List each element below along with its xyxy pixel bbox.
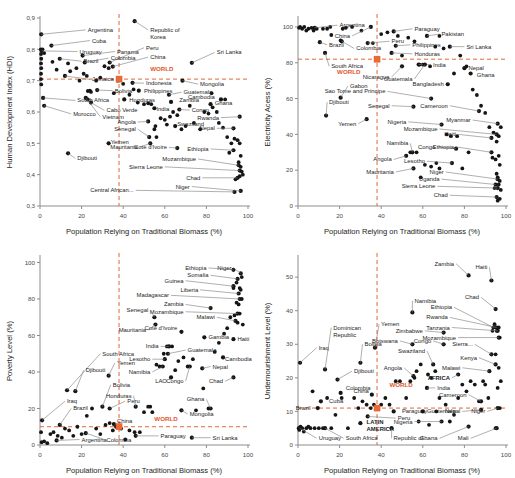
- data-point: [365, 403, 369, 407]
- point-label: Yemen: [381, 321, 399, 327]
- data-point: [55, 68, 59, 72]
- point-label: Sierra Leone: [129, 164, 163, 170]
- data-point: [237, 303, 241, 307]
- data-point: [122, 97, 126, 101]
- x-tick-label: 80: [203, 212, 210, 219]
- point-label: Nigeria: [394, 419, 413, 425]
- leader-line: [186, 281, 234, 286]
- data-point: [311, 389, 315, 393]
- y-tick-label: 20: [28, 405, 35, 412]
- point-label: Ghana: [420, 435, 438, 441]
- x-tick-label: 80: [461, 212, 468, 219]
- data-point: [217, 121, 221, 125]
- data-point: [392, 409, 396, 413]
- data-point: [460, 167, 464, 171]
- y-tick-label: 0: [290, 441, 294, 448]
- leader-line: [68, 153, 75, 158]
- data-point: [90, 407, 94, 411]
- leader-line: [136, 190, 235, 192]
- point-label: Cambodia: [225, 356, 253, 362]
- leader-line: [221, 117, 240, 118]
- leader-line: [186, 304, 211, 308]
- data-point: [358, 421, 362, 425]
- y-tick-label: 100: [283, 23, 294, 30]
- x-tick-label: 0: [296, 451, 300, 458]
- data-point: [111, 428, 115, 432]
- leader-line: [473, 120, 498, 124]
- point-label: Sri Lanka: [466, 44, 492, 50]
- data-point: [39, 77, 43, 81]
- point-label: Rwanda: [197, 115, 219, 121]
- point-label: Cabo Verde: [106, 107, 138, 113]
- data-point: [241, 173, 245, 177]
- data-point: [200, 366, 204, 370]
- leader-line: [135, 21, 149, 30]
- data-point: [334, 413, 338, 417]
- leader-line: [75, 370, 83, 391]
- point-label: Chad: [465, 294, 479, 300]
- world-marker: [374, 405, 380, 411]
- x-axis-label: Population Relying on Traditional Biomas…: [324, 227, 481, 236]
- data-point: [442, 47, 446, 51]
- point-label: Peru: [392, 38, 404, 44]
- data-point: [221, 126, 225, 130]
- point-label: India: [433, 62, 446, 68]
- y-axis-label: Human Development Index (HDI): [5, 55, 14, 168]
- data-point: [444, 403, 448, 407]
- leader-line: [360, 344, 362, 362]
- point-label: Rwanda: [426, 314, 448, 320]
- leader-line: [168, 350, 186, 354]
- point-label: Republic ofKorea: [150, 27, 180, 40]
- leader-line: [171, 295, 240, 299]
- leader-line: [469, 395, 481, 402]
- data-point: [169, 100, 173, 104]
- point-label: Namibia: [414, 298, 436, 304]
- data-point: [80, 432, 84, 436]
- data-point: [171, 110, 175, 114]
- data-point: [462, 66, 466, 70]
- y-tick-label: 30: [286, 340, 293, 347]
- point-label: Namibia: [129, 369, 151, 375]
- data-point: [150, 410, 154, 414]
- point-label: Djibouti: [77, 155, 97, 161]
- world-marker: [116, 424, 122, 430]
- data-point: [431, 362, 435, 366]
- point-label: Cuba: [329, 398, 344, 404]
- point-label: Haiti: [238, 336, 250, 342]
- point-label: Colombia: [356, 45, 382, 51]
- data-point: [176, 359, 180, 363]
- point-label: Chad: [209, 378, 223, 384]
- point-label: Honduras: [106, 393, 132, 399]
- data-point: [76, 425, 80, 429]
- data-point: [71, 434, 75, 438]
- data-point: [466, 424, 470, 428]
- axes: [40, 255, 250, 445]
- data-point: [329, 33, 333, 37]
- leader-line: [338, 371, 353, 379]
- data-point: [162, 352, 166, 356]
- point-label: DominicanRepublic: [333, 325, 361, 338]
- y-tick-label: 0,6: [26, 108, 35, 115]
- leader-line: [396, 45, 411, 46]
- data-point: [448, 420, 452, 424]
- data-point: [229, 141, 233, 145]
- x-tick-label: 60: [419, 451, 426, 458]
- world-label: WORLD: [150, 65, 174, 72]
- point-label: Haiti: [444, 131, 456, 137]
- y-tick-label: 40: [286, 307, 293, 314]
- point-label: Argentina: [340, 22, 366, 28]
- point-label: Bolivia: [113, 382, 131, 388]
- data-point: [51, 60, 55, 64]
- data-point: [498, 163, 502, 167]
- data-point: [188, 364, 192, 368]
- data-point: [238, 141, 242, 145]
- data-point: [180, 127, 184, 131]
- point-label: Honduras: [129, 97, 155, 103]
- point-label: Nepal: [213, 364, 228, 370]
- data-point: [108, 421, 112, 425]
- x-tick-label: 0: [38, 212, 42, 219]
- leader-line: [368, 41, 390, 43]
- x-axis-label: Population Relying on Traditional Biomas…: [66, 227, 223, 236]
- point-label: Argentina: [88, 27, 114, 33]
- point-label: Ghana: [187, 396, 205, 402]
